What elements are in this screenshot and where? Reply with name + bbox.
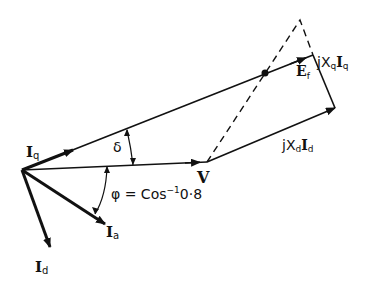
v-phasor bbox=[22, 162, 207, 170]
phi-arc bbox=[95, 167, 107, 214]
intersection-dot bbox=[262, 70, 269, 77]
phasor-diagram: Iq Id Ia V Ef δ φ = Cos−10·8 jXqIq jXdId bbox=[0, 0, 381, 287]
jxd-id-phasor bbox=[207, 108, 335, 162]
ia-label: Ia bbox=[106, 223, 119, 241]
jxd-id-label: jXdId bbox=[281, 137, 313, 154]
iq-label: Iq bbox=[26, 143, 39, 161]
ia-phasor bbox=[22, 170, 105, 224]
ef-label: Ef bbox=[296, 63, 311, 81]
phi-label: φ = Cos−10·8 bbox=[111, 185, 202, 202]
delta-label: δ bbox=[113, 139, 122, 155]
id-phasor bbox=[22, 170, 50, 247]
v-label: V bbox=[196, 168, 210, 187]
id-label: Id bbox=[35, 258, 48, 276]
jxq-iq-label: jXqIq bbox=[316, 54, 348, 71]
